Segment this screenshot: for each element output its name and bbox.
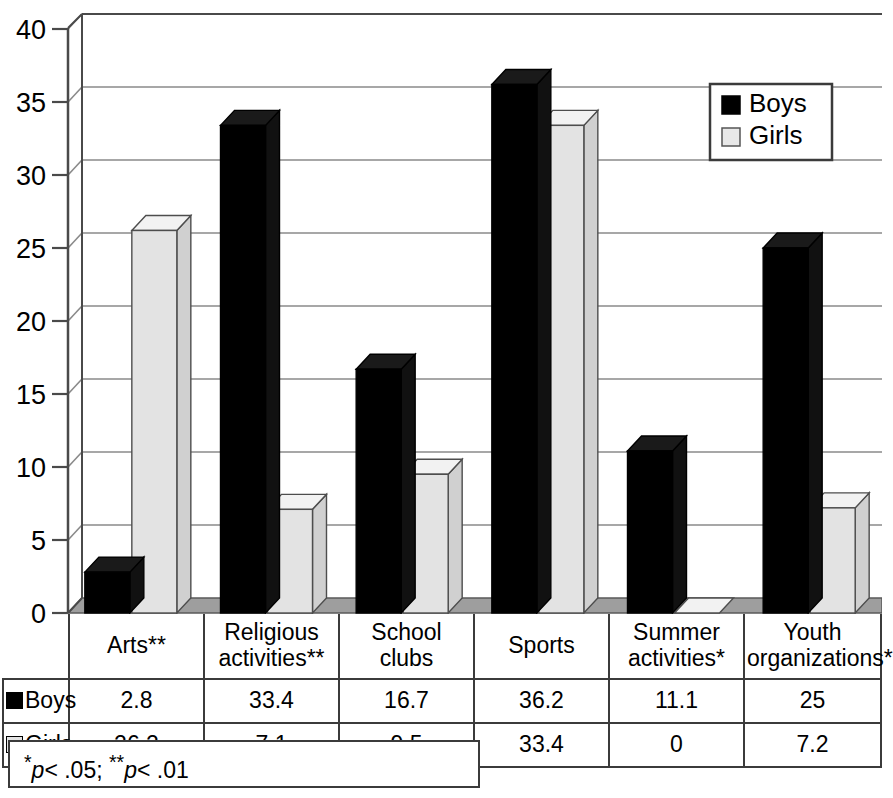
bar-side-face: [177, 215, 191, 613]
table-cell: 2.8: [69, 679, 204, 723]
grouped-bar-chart: 0510152025303540 Boys Girls: [0, 0, 882, 640]
bar: [763, 233, 822, 613]
table-series-label-cell: Boys: [3, 679, 69, 723]
y-axis-tick-label: 30: [16, 161, 46, 191]
table-column-header: Youthorganizations*: [744, 614, 881, 679]
table-column-header-line: Arts**: [107, 632, 166, 658]
bar: [132, 215, 191, 613]
table-cell: 11.1: [609, 679, 744, 723]
table-column-header-line: Religious: [224, 619, 319, 645]
bar-side-face: [808, 233, 822, 613]
footnote-p-1: p: [32, 757, 45, 783]
bar: [492, 69, 551, 613]
y-axis-tick-label: 10: [16, 453, 46, 483]
y-axis-tick-label: 40: [16, 15, 46, 45]
footnote-star-double: **: [109, 751, 124, 773]
bar-front-face: [628, 451, 673, 613]
table-column-header-line: School clubs: [371, 619, 441, 671]
table-column-header-line: Sports: [508, 632, 574, 658]
table-row: Boys2.833.416.736.211.125: [3, 679, 881, 723]
bar-front-face: [85, 572, 130, 613]
bar: [356, 354, 415, 613]
bar-front-face: [763, 248, 808, 613]
table-cell: 36.2: [474, 679, 609, 723]
table-column-header: School clubs: [339, 614, 474, 679]
table-cell: 25: [744, 679, 881, 723]
table-header-row: Arts**Religiousactivities**School clubsS…: [3, 614, 881, 679]
table-column-header: Sports: [474, 614, 609, 679]
y-axis-tick-label: 25: [16, 234, 46, 264]
bar-side-face: [266, 110, 280, 613]
bar-side-face: [313, 494, 327, 613]
y-axis-tick-label: 35: [16, 88, 46, 118]
y-axis-tick-label: 20: [16, 307, 46, 337]
bar-front-face: [356, 369, 401, 613]
table-corner-cell: [3, 614, 69, 679]
bar: [221, 110, 280, 613]
footnote-p05: < .05;: [44, 757, 109, 783]
bar-front-face: [492, 84, 537, 613]
table-column-header-line: activities*: [628, 645, 725, 671]
table-column-header-line: organizations*: [747, 645, 893, 671]
table-column-header-line: activities**: [218, 645, 324, 671]
table-column-header: Summeractivities*: [609, 614, 744, 679]
footnote-p-2: p: [124, 757, 137, 783]
chart-floor: [68, 598, 882, 613]
footnote-p01: < .01: [137, 757, 189, 783]
footnote-box: *p< .05; **p< .01: [8, 740, 480, 788]
table-column-header: Religiousactivities**: [204, 614, 339, 679]
legend-label-boys: Boys: [749, 88, 807, 118]
legend-label-girls: Girls: [749, 120, 802, 150]
table-column-header-line: Summer: [633, 619, 720, 645]
table-cell: 0: [609, 723, 744, 767]
bar-side-face: [673, 436, 687, 613]
table-cell: 16.7: [339, 679, 474, 723]
chart-legend: Boys Girls: [710, 84, 832, 160]
footnote-star-single: *: [24, 751, 32, 773]
table-cell: 33.4: [474, 723, 609, 767]
bar-side-face: [448, 459, 462, 613]
legend-swatch-boys: [722, 96, 740, 114]
bar: [85, 557, 144, 613]
table-column-header-line: Youth: [784, 619, 842, 645]
bar-front-face: [221, 125, 266, 613]
bar-side-face: [537, 69, 551, 613]
bar-front-face: [132, 230, 177, 613]
bar-side-face: [401, 354, 415, 613]
black-square-icon: [6, 692, 23, 709]
legend-swatch-girls: [722, 128, 740, 146]
footnote-text: *p< .05; **p< .01: [10, 742, 478, 784]
table-cell: 33.4: [204, 679, 339, 723]
y-axis-tick-label: 5: [31, 526, 46, 556]
table-series-name: Boys: [25, 687, 76, 713]
y-axis-tick-label: 15: [16, 380, 46, 410]
table-cell: 7.2: [744, 723, 881, 767]
table-column-header: Arts**: [69, 614, 204, 679]
bar-side-face: [855, 493, 869, 613]
bar-side-face: [584, 110, 598, 613]
bar: [628, 436, 687, 613]
